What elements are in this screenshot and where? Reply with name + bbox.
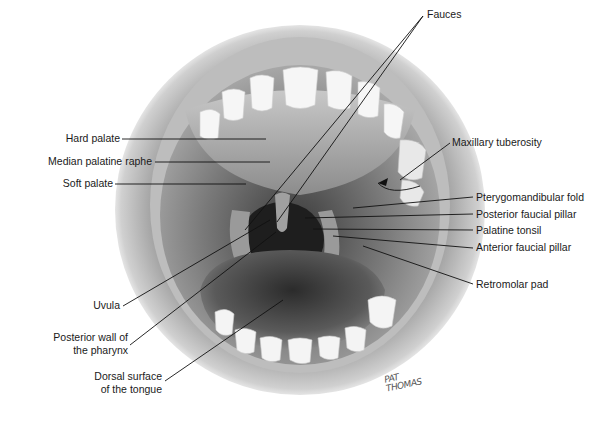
label-posterior-wall-pharynx-line1: Posterior wall of bbox=[40, 331, 128, 344]
label-posterior-wall-pharynx: Posterior wall of the pharynx bbox=[40, 331, 128, 357]
label-retromolar-pad: Retromolar pad bbox=[476, 278, 548, 291]
label-dorsal-surface-tongue-line1: Dorsal surface bbox=[80, 370, 162, 383]
mouth-anatomy-diagram: Hard palate Median palatine raphe Soft p… bbox=[0, 0, 602, 421]
label-dorsal-surface-tongue: Dorsal surface of the tongue bbox=[80, 370, 162, 396]
label-soft-palate: Soft palate bbox=[45, 177, 113, 190]
label-posterior-faucial-pillar: Posterior faucial pillar bbox=[476, 208, 576, 221]
label-fauces: Fauces bbox=[427, 8, 461, 21]
label-hard-palate: Hard palate bbox=[60, 132, 120, 145]
label-pterygomandibular-fold: Pterygomandibular fold bbox=[476, 191, 584, 204]
label-maxillary-tuberosity: Maxillary tuberosity bbox=[452, 136, 542, 149]
label-median-palatine-raphe: Median palatine raphe bbox=[18, 155, 152, 168]
label-posterior-wall-pharynx-line2: the pharynx bbox=[40, 344, 128, 357]
label-anterior-faucial-pillar: Anterior faucial pillar bbox=[476, 241, 571, 254]
label-palatine-tonsil: Palatine tonsil bbox=[476, 224, 541, 237]
label-dorsal-surface-tongue-line2: of the tongue bbox=[80, 383, 162, 396]
label-uvula: Uvula bbox=[80, 299, 120, 312]
